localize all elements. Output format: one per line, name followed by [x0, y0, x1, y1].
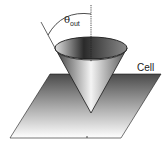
cell-label: Cell: [137, 62, 154, 73]
theta-out-label: θout: [64, 14, 80, 27]
plane-center-dot: [86, 136, 88, 138]
